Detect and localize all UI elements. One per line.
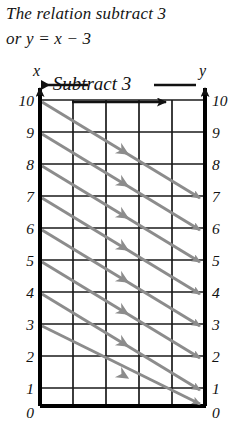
right-tick-2: 2 — [212, 348, 220, 365]
right-tick-9: 9 — [212, 124, 220, 141]
left-tick-9: 9 — [26, 124, 34, 141]
right-tick-4: 4 — [212, 284, 220, 301]
right-tick-5: 5 — [212, 252, 220, 269]
left-axis-tick-labels: 10 9 8 7 6 5 4 3 2 1 0 — [19, 92, 36, 421]
left-tick-6: 6 — [26, 220, 34, 237]
left-tick-10: 10 — [19, 92, 35, 109]
right-tick-0: 0 — [212, 404, 220, 421]
operation-label: Subtract 3 — [53, 73, 132, 94]
left-tick-2: 2 — [26, 348, 34, 365]
left-tick-3: 3 — [25, 316, 34, 333]
left-axis-variable-label: x — [32, 62, 40, 79]
left-tick-8: 8 — [26, 156, 34, 173]
left-tick-7: 7 — [26, 188, 35, 205]
relation-equation: y = x − 3 — [26, 29, 91, 48]
right-tick-8: 8 — [212, 156, 220, 173]
left-tick-0: 0 — [26, 404, 34, 421]
right-tick-7: 7 — [212, 188, 221, 205]
right-axis-variable-label: y — [197, 62, 207, 80]
right-tick-6: 6 — [212, 220, 220, 237]
caption-or-word: or — [6, 29, 22, 48]
left-tick-5: 5 — [26, 252, 34, 269]
figure-caption: The relation subtract 3 or y = x − 3 — [6, 2, 244, 51]
caption-line-1: The relation subtract 3 — [6, 4, 166, 23]
diagram-canvas: x y Subtract 3 10 9 8 7 6 5 4 3 2 1 0 10… — [0, 58, 248, 423]
right-axis-tick-labels: 10 9 8 7 6 5 4 3 2 1 0 — [211, 92, 228, 421]
mapping-arrow-3-to-0 — [42, 326, 200, 404]
mapping-arrows — [42, 102, 200, 404]
right-tick-10: 10 — [212, 92, 228, 109]
left-tick-4: 4 — [26, 284, 34, 301]
relation-mapping-diagram: x y Subtract 3 10 9 8 7 6 5 4 3 2 1 0 10… — [0, 58, 248, 423]
right-tick-1: 1 — [212, 380, 220, 397]
right-tick-3: 3 — [211, 316, 220, 333]
operation-arrowhead-left — [41, 80, 50, 90]
left-tick-1: 1 — [26, 380, 34, 397]
caption-line-2: or y = x − 3 — [6, 27, 244, 52]
